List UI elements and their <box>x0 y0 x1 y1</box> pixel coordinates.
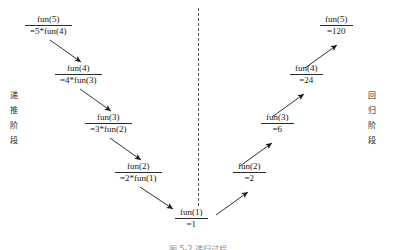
node-numerator: fun(3) <box>261 112 294 124</box>
node-return-fun2: fun(2) =2 <box>233 161 266 184</box>
arrow-descent-5-4 <box>50 40 81 62</box>
node-denominator: =4*fun(3) <box>55 75 102 86</box>
phase-right-char-3: 段 <box>366 133 378 148</box>
figure-caption: 图 5-2 递归过程 <box>0 243 396 250</box>
phase-left-char-3: 段 <box>8 133 20 148</box>
node-descent-fun4: fun(4) =4*fun(3) <box>55 63 102 86</box>
node-numerator: fun(4) <box>290 63 323 75</box>
node-numerator: fun(5) <box>320 14 353 26</box>
node-descent-fun5: fun(5) =5*fun(4) <box>25 14 72 37</box>
recursion-diagram: 递 推 阶 段 回 归 阶 段 fun(5) =5*fun(4) fun(4) … <box>0 0 396 250</box>
node-denominator: =120 <box>320 26 353 37</box>
arrow-descent-2-1 <box>140 187 173 209</box>
node-numerator: fun(5) <box>25 14 72 26</box>
node-descent-fun2: fun(2) =2*fun(1) <box>115 161 162 184</box>
node-denominator: =3*fun(2) <box>85 124 132 135</box>
node-return-fun4: fun(4) =24 <box>290 63 323 86</box>
phase-label-descent: 递 推 阶 段 <box>8 88 20 148</box>
node-denominator: =2 <box>233 173 266 184</box>
phase-right-char-1: 归 <box>366 103 378 118</box>
node-numerator: fun(1) <box>175 207 208 219</box>
node-base-fun1: fun(1) =1 <box>175 207 208 230</box>
node-denominator: =5*fun(4) <box>25 26 72 37</box>
phase-label-return: 回 归 阶 段 <box>366 88 378 148</box>
node-numerator: fun(3) <box>85 112 132 124</box>
node-denominator: =6 <box>261 124 294 135</box>
node-descent-fun3: fun(3) =3*fun(2) <box>85 112 132 135</box>
node-numerator: fun(2) <box>115 161 162 173</box>
node-numerator: fun(4) <box>55 63 102 75</box>
arrow-descent-4-3 <box>80 89 111 111</box>
arrow-return-1-2 <box>216 192 248 215</box>
phase-left-char-1: 推 <box>8 103 20 118</box>
node-denominator: =1 <box>175 219 208 230</box>
phase-right-char-0: 回 <box>366 88 378 103</box>
node-numerator: fun(2) <box>233 161 266 173</box>
node-denominator: =2*fun(1) <box>115 173 162 184</box>
node-return-fun5: fun(5) =120 <box>320 14 353 37</box>
phase-left-char-2: 阶 <box>8 118 20 133</box>
node-denominator: =24 <box>290 75 323 86</box>
phase-right-char-2: 阶 <box>366 118 378 133</box>
phase-left-char-0: 递 <box>8 88 20 103</box>
node-return-fun3: fun(3) =6 <box>261 112 294 135</box>
arrow-descent-3-2 <box>110 138 141 160</box>
